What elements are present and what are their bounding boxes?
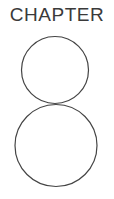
eight-top-loop [22, 37, 89, 104]
eight-bottom-loop [15, 105, 97, 187]
chapter-number-eight [0, 0, 114, 199]
